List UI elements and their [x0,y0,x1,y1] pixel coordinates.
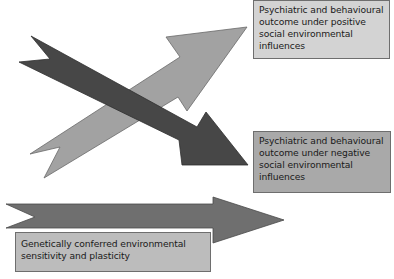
positive-outcome-label: Psychiatric and behavioural outcome unde… [259,4,383,51]
positive-outcome-box: Psychiatric and behavioural outcome unde… [253,0,390,59]
genetic-sensitivity-box: Genetically conferred environmental sens… [15,232,211,272]
negative-outcome-box: Psychiatric and behavioural outcome unde… [253,131,391,193]
genetic-sensitivity-label: Genetically conferred environmental sens… [21,238,186,261]
negative-outcome-label: Psychiatric and behavioural outcome unde… [259,135,383,182]
